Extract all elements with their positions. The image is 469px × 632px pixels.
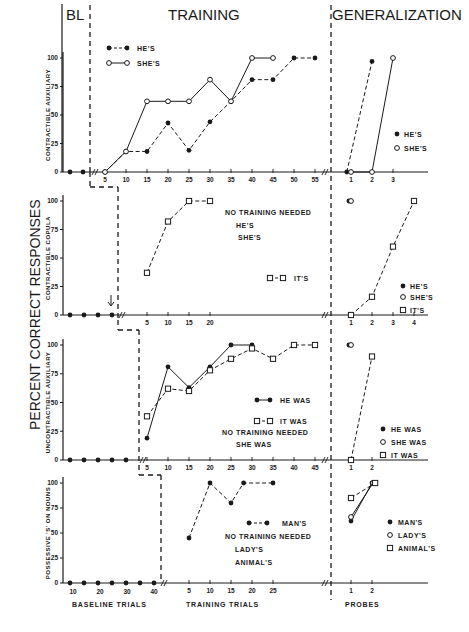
- open-square-marker: [267, 275, 272, 280]
- filled-circle-marker: [152, 581, 157, 586]
- probe-tick-label: 2: [370, 176, 374, 183]
- probe-tick-label: 2: [370, 319, 374, 326]
- note-no-training: NO TRAINING NEEDED: [225, 533, 311, 540]
- series-line: [189, 483, 273, 538]
- y-tick-label: 75: [51, 226, 59, 233]
- x-label-training: TRAINING TRIALS: [186, 601, 259, 608]
- filled-circle-marker: [208, 481, 213, 486]
- note-item: SHE'S: [238, 234, 261, 241]
- legend-label: MAN'S: [398, 519, 423, 526]
- filled-circle-marker: [401, 284, 406, 289]
- training-tick-label: 45: [269, 176, 277, 183]
- open-square-marker: [165, 386, 170, 391]
- legend-label: HE'S: [137, 45, 155, 52]
- filled-circle-marker: [241, 481, 246, 486]
- training-tick-label: 5: [145, 319, 149, 326]
- y-tick-label: 75: [51, 504, 59, 511]
- filled-circle-marker: [107, 46, 112, 51]
- training-tick-label: 20: [206, 319, 214, 326]
- filled-circle-marker: [187, 536, 192, 541]
- training-tick-label: 35: [269, 464, 277, 471]
- panel-1: 0255075100CONTRACTIBLE AUXILIARY51015202…: [45, 52, 428, 183]
- open-square-marker: [369, 354, 374, 359]
- panel-ylabel: POSSESSIVE 'S' ON NOUNS: [45, 487, 51, 579]
- header-training: TRAINING: [168, 6, 240, 23]
- filled-circle-marker: [265, 521, 270, 526]
- filled-circle-marker: [138, 581, 143, 586]
- open-circle-marker: [401, 295, 406, 300]
- y-tick-label: 25: [51, 283, 59, 290]
- note-item: ANIMAL'S: [235, 559, 273, 566]
- probe-tick-label: 2: [370, 587, 374, 594]
- filled-circle-marker: [110, 581, 115, 586]
- x-label-baseline: BASELINE TRIALS: [72, 601, 147, 608]
- probe-tick-label: 2: [370, 464, 374, 471]
- y-tick-label: 50: [51, 111, 59, 118]
- filled-circle-marker: [124, 581, 129, 586]
- open-circle-marker: [103, 170, 108, 175]
- legend-label: HE'S: [410, 283, 428, 290]
- open-square-marker: [267, 418, 272, 423]
- open-circle-marker: [349, 199, 354, 204]
- open-square-marker: [280, 275, 285, 280]
- y-tick-label: 100: [47, 54, 58, 61]
- training-tick-label: 20: [206, 464, 214, 471]
- filled-circle-marker: [381, 427, 386, 432]
- filled-circle-marker: [208, 119, 213, 124]
- open-square-marker: [390, 244, 395, 249]
- training-tick-label: 15: [185, 319, 193, 326]
- open-circle-marker: [349, 343, 354, 348]
- training-tick-label: 5: [187, 587, 191, 594]
- open-square-marker: [207, 198, 212, 203]
- probe-tick-label: 1: [349, 319, 353, 326]
- open-square-marker: [144, 270, 149, 275]
- probe-tick-label: 3: [391, 319, 395, 326]
- open-square-marker: [369, 294, 374, 299]
- filled-circle-marker: [250, 77, 255, 82]
- note-item: SHE WAS: [236, 441, 272, 448]
- open-square-marker: [373, 480, 378, 485]
- y-tick-label: 75: [51, 83, 59, 90]
- open-circle-marker: [145, 99, 150, 104]
- filled-circle-marker: [110, 313, 115, 318]
- panel-ylabel: CONTRACTIBLE AUXILIARY: [45, 69, 51, 161]
- note-no-training: NO TRAINING NEEDED: [222, 429, 308, 436]
- filled-circle-marker: [110, 458, 115, 463]
- y-tick-label: 0: [54, 456, 58, 463]
- y-tick-label: 25: [51, 140, 59, 147]
- legend-label: HE WAS: [391, 426, 422, 433]
- open-circle-marker: [395, 146, 400, 151]
- legend-label: IT WAS: [391, 452, 418, 459]
- training-tick-label: 20: [248, 587, 256, 594]
- open-square-marker: [348, 457, 353, 462]
- open-circle-marker: [370, 170, 375, 175]
- training-tick-label: 10: [164, 319, 172, 326]
- training-tick-label: 35: [227, 176, 235, 183]
- filled-circle-marker: [68, 170, 73, 175]
- open-square-marker: [387, 545, 392, 550]
- training-tick-label: 30: [248, 464, 256, 471]
- series-line: [105, 58, 315, 172]
- filled-circle-marker: [229, 501, 234, 506]
- filled-circle-marker: [187, 148, 192, 153]
- baseline-tick-label: 10: [69, 588, 77, 595]
- filled-circle-marker: [96, 313, 101, 318]
- open-square-marker: [348, 495, 353, 500]
- open-square-marker: [186, 198, 191, 203]
- legend-label: IT'S: [410, 307, 425, 314]
- probe-tick-label: 1: [349, 587, 353, 594]
- open-square-marker: [207, 368, 212, 373]
- series-line: [347, 61, 372, 172]
- y-tick-label: 50: [51, 529, 59, 536]
- note-item: HE'S: [236, 222, 254, 229]
- filled-circle-marker: [395, 132, 400, 137]
- open-square-marker: [291, 342, 296, 347]
- filled-circle-marker: [166, 364, 171, 369]
- filled-circle-marker: [292, 56, 297, 61]
- open-circle-marker: [349, 515, 354, 520]
- legend-label: SHE'S: [137, 60, 160, 67]
- open-square-marker: [165, 219, 170, 224]
- y-axis-title: PERCENT CORRECT RESPONSES: [27, 199, 43, 430]
- training-tick-label: 5: [145, 464, 149, 471]
- filled-circle-marker: [68, 581, 73, 586]
